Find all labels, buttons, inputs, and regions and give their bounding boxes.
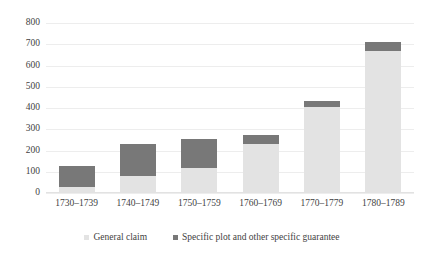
x-axis-tick-label: 1770–1779 [291, 197, 352, 209]
x-axis-tick-label: 1740–1749 [107, 197, 168, 209]
chart-legend: General claimSpecific plot and other spe… [0, 232, 424, 243]
bar-segment-specific-plot[interactable] [120, 144, 156, 176]
legend-item-label: Specific plot and other specific guarant… [182, 232, 339, 243]
y-axis-tick-label: 100 [6, 167, 40, 177]
stacked-bar-chart: 8007006005004003002001000 1730–17391740–… [0, 0, 424, 256]
y-axis-tick-label: 400 [6, 103, 40, 113]
bar-segment-general-claim[interactable] [365, 51, 401, 193]
bar-segment-specific-plot[interactable] [59, 166, 95, 187]
bar-segment-general-claim[interactable] [181, 168, 217, 194]
bar-stack[interactable] [243, 135, 279, 193]
y-axis-tick-label: 300 [6, 124, 40, 134]
bar-stack[interactable] [365, 42, 401, 194]
bar-stack[interactable] [304, 101, 340, 193]
x-axis-tick-label: 1730–1739 [46, 197, 107, 209]
bar-series-group [46, 23, 414, 193]
legend-swatch-icon [84, 235, 89, 240]
cropped-title-fragment [0, 0, 424, 6]
x-axis-tick-label: 1780–1789 [353, 197, 414, 209]
bar-stack[interactable] [120, 144, 156, 193]
legend-item-label: General claim [93, 232, 147, 243]
y-axis-tick-label: 0 [6, 188, 40, 198]
legend-item[interactable]: General claim [84, 232, 147, 243]
plot-area [46, 23, 414, 193]
bar-segment-general-claim[interactable] [304, 107, 340, 193]
bar-segment-general-claim[interactable] [243, 144, 279, 193]
y-axis-tick-label: 800 [6, 18, 40, 28]
bar-segment-specific-plot[interactable] [243, 135, 279, 145]
bar-segment-specific-plot[interactable] [365, 42, 401, 51]
y-axis-tick-label: 600 [6, 61, 40, 71]
x-axis-tick-labels: 1730–17391740–17491750–17591760–17691770… [46, 197, 414, 213]
bar-segment-specific-plot[interactable] [181, 139, 217, 167]
legend-swatch-icon [173, 235, 178, 240]
gridline [46, 193, 414, 194]
bar-stack[interactable] [181, 139, 217, 193]
x-axis-line [46, 192, 414, 193]
bar-stack[interactable] [59, 166, 95, 193]
bar-segment-general-claim[interactable] [120, 176, 156, 193]
y-axis-tick-label: 700 [6, 39, 40, 49]
legend-item[interactable]: Specific plot and other specific guarant… [173, 232, 339, 243]
y-axis-tick-label: 500 [6, 82, 40, 92]
x-axis-tick-label: 1760–1769 [230, 197, 291, 209]
x-axis-tick-label: 1750–1759 [169, 197, 230, 209]
y-axis-tick-label: 200 [6, 146, 40, 156]
